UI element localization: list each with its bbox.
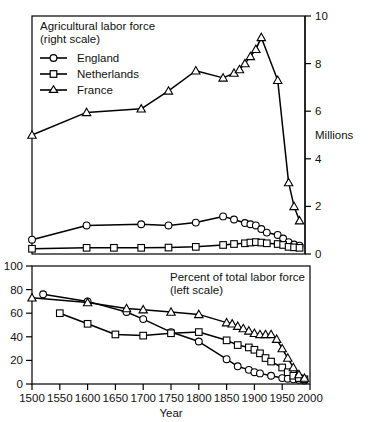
circle-marker-icon xyxy=(50,55,57,62)
triangle-marker-icon xyxy=(290,202,298,209)
series-france xyxy=(28,294,309,382)
bottom-panel-left-ticks: 100 80 60 40 20 0 xyxy=(4,260,32,390)
circle-marker-icon xyxy=(234,363,241,370)
square-marker-icon xyxy=(168,330,175,337)
right-axis-label: Millions xyxy=(315,129,354,141)
bottom-ytick-100: 100 xyxy=(4,260,23,272)
square-marker-icon xyxy=(231,241,238,248)
legend-entry-netherlands: Netherlands xyxy=(40,68,139,80)
triangle-marker-icon xyxy=(49,86,57,93)
circle-marker-icon xyxy=(140,316,147,323)
series-france xyxy=(28,33,304,224)
bottom-ytick-60: 60 xyxy=(10,307,23,319)
square-marker-icon xyxy=(196,329,203,336)
square-marker-icon xyxy=(220,242,227,249)
square-marker-icon xyxy=(50,71,57,78)
square-marker-icon xyxy=(83,245,90,252)
x-tick-label-1600: 1600 xyxy=(75,392,101,404)
square-marker-icon xyxy=(138,245,145,252)
legend-entry-france: France xyxy=(40,84,113,96)
series-netherlands xyxy=(29,239,303,252)
triangle-marker-icon xyxy=(252,45,260,52)
legend-entry-england: England xyxy=(40,52,119,64)
top-annotation-line1: Agricultural labor force xyxy=(40,20,155,32)
series-line xyxy=(32,37,300,220)
circle-marker-icon xyxy=(223,356,230,363)
bottom-annotation-line2: (left scale) xyxy=(170,284,223,296)
series-netherlands xyxy=(57,310,308,383)
triangle-marker-icon xyxy=(274,76,282,83)
bottom-panel-series xyxy=(28,291,309,384)
square-marker-icon xyxy=(193,244,200,251)
circle-marker-icon xyxy=(138,221,145,228)
square-marker-icon xyxy=(223,337,230,344)
legend-label-england: England xyxy=(77,52,119,64)
circle-marker-icon xyxy=(220,213,227,220)
x-axis-label: Year xyxy=(159,407,182,419)
x-tick-label-2000: 2000 xyxy=(297,392,323,404)
x-tick-label-1700: 1700 xyxy=(130,392,156,404)
square-marker-icon xyxy=(29,245,36,252)
top-panel-series xyxy=(28,33,304,252)
square-marker-icon xyxy=(112,331,119,338)
bottom-annotation-line1: Percent of total labor force xyxy=(170,271,305,283)
circle-marker-icon xyxy=(40,291,47,298)
circle-marker-icon xyxy=(83,222,90,229)
legend-label-france: France xyxy=(77,84,113,96)
series-line xyxy=(60,313,305,379)
triangle-marker-icon xyxy=(289,363,297,370)
x-tick-label-1900: 1900 xyxy=(242,392,268,404)
top-ytick-6: 6 xyxy=(315,105,321,117)
circle-marker-icon xyxy=(263,229,270,236)
square-marker-icon xyxy=(84,321,91,328)
top-ytick-4: 4 xyxy=(315,153,322,165)
x-tick-label-1550: 1550 xyxy=(47,392,73,404)
bottom-ytick-80: 80 xyxy=(10,284,23,296)
legend-label-netherlands: Netherlands xyxy=(77,68,139,80)
x-tick-label-1650: 1650 xyxy=(103,392,129,404)
legend: England Netherlands France xyxy=(40,52,139,96)
top-ytick-2: 2 xyxy=(315,200,321,212)
circle-marker-icon xyxy=(29,236,36,243)
circle-marker-icon xyxy=(165,222,172,229)
bottom-ytick-20: 20 xyxy=(10,354,23,366)
top-panel-frame xyxy=(32,16,305,254)
square-marker-icon xyxy=(140,332,147,339)
x-tick-label-1800: 1800 xyxy=(186,392,212,404)
triangle-marker-icon xyxy=(192,67,200,74)
square-marker-icon xyxy=(296,245,303,252)
bottom-ytick-0: 0 xyxy=(17,378,23,390)
triangle-marker-icon xyxy=(257,33,265,40)
square-marker-icon xyxy=(57,310,64,317)
agricultural-labor-force-figure: 10 8 6 4 2 0 Millions Agricultural labor… xyxy=(0,0,369,422)
top-ytick-10: 10 xyxy=(315,10,328,22)
circle-marker-icon xyxy=(268,372,275,379)
x-axis-ticks: 1500155016001650170017501800185019001950… xyxy=(19,384,323,404)
triangle-marker-icon xyxy=(284,354,292,361)
x-tick-label-1950: 1950 xyxy=(269,392,295,404)
top-panel: 10 8 6 4 2 0 Millions Agricultural labor… xyxy=(28,10,354,260)
triangle-marker-icon xyxy=(278,344,286,351)
square-marker-icon xyxy=(111,245,118,252)
x-tick-label-1850: 1850 xyxy=(214,392,240,404)
square-marker-icon xyxy=(234,342,241,349)
square-marker-icon xyxy=(165,244,172,251)
bottom-ytick-40: 40 xyxy=(10,331,23,343)
triangle-marker-icon xyxy=(284,178,292,185)
x-tick-label-1750: 1750 xyxy=(158,392,184,404)
circle-marker-icon xyxy=(257,370,264,377)
x-tick-label-1500: 1500 xyxy=(19,392,45,404)
square-marker-icon xyxy=(263,240,270,247)
circle-marker-icon xyxy=(192,219,199,226)
square-marker-icon xyxy=(268,358,275,365)
top-annotation-line2: (right scale) xyxy=(40,33,100,45)
top-ytick-0: 0 xyxy=(315,248,321,260)
bottom-panel: 100 80 60 40 20 0 Percent of total labor… xyxy=(4,260,323,419)
top-ytick-8: 8 xyxy=(315,58,321,70)
triangle-marker-icon xyxy=(295,216,303,223)
circle-marker-icon xyxy=(231,216,238,223)
circle-marker-icon xyxy=(195,338,202,345)
